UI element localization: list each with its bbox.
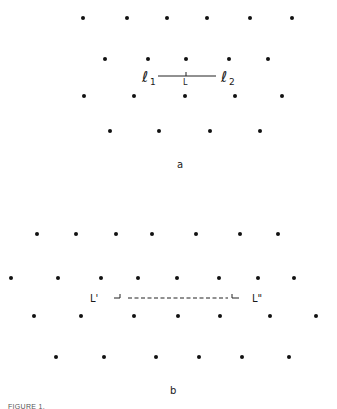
label-L-double-prime: L" <box>252 293 262 304</box>
panel-a-segment <box>158 72 216 76</box>
lattice-point <box>165 16 169 20</box>
lattice-point <box>102 355 106 359</box>
label-l2: ℓ <box>220 68 227 86</box>
label-L-prime: L' <box>90 293 98 304</box>
lattice-point <box>54 355 58 359</box>
label-l1-subscript: 1 <box>150 77 156 87</box>
lattice-point <box>175 276 179 280</box>
lattice-point <box>290 16 294 20</box>
panel-b-lattice-points <box>9 232 318 359</box>
lattice-point <box>35 232 39 236</box>
label-midpoint-L: L <box>183 78 188 87</box>
lattice-point <box>132 314 136 318</box>
lattice-point <box>146 57 150 61</box>
lattice-point <box>217 276 221 280</box>
lattice-point <box>227 57 231 61</box>
lattice-point <box>132 94 136 98</box>
lattice-point <box>197 355 201 359</box>
lattice-point <box>103 57 107 61</box>
lattice-point <box>81 16 85 20</box>
lattice-point <box>183 94 187 98</box>
lattice-point <box>150 232 154 236</box>
lattice-point <box>99 276 103 280</box>
lattice-point <box>218 314 222 318</box>
lattice-point <box>240 355 244 359</box>
lattice-point <box>292 276 296 280</box>
lattice-point <box>79 314 83 318</box>
lattice-point <box>258 129 262 133</box>
lattice-point <box>176 314 180 318</box>
lattice-point <box>32 314 36 318</box>
panel-a-lattice-points <box>81 16 294 133</box>
lattice-point <box>184 57 188 61</box>
lattice-point <box>154 355 158 359</box>
lattice-point <box>157 129 161 133</box>
label-l1: ℓ <box>141 68 148 86</box>
lattice-point <box>256 276 260 280</box>
lattice-point <box>108 129 112 133</box>
lattice-point <box>74 232 78 236</box>
panel-b-label: b <box>170 385 176 396</box>
lattice-point <box>208 129 212 133</box>
lattice-point <box>56 276 60 280</box>
lattice-point <box>9 276 13 280</box>
lattice-point <box>114 232 118 236</box>
panel-a-label: a <box>177 159 183 170</box>
panel-b-segment <box>114 294 239 298</box>
lattice-point <box>276 232 280 236</box>
lattice-point <box>233 94 237 98</box>
lattice-point <box>266 57 270 61</box>
lattice-point <box>82 94 86 98</box>
lattice-point <box>205 16 209 20</box>
lattice-point <box>125 16 129 20</box>
figure-caption: FIGURE 1. <box>8 403 45 409</box>
label-l2-subscript: 2 <box>229 77 235 87</box>
lattice-point <box>136 276 140 280</box>
lattice-point <box>238 232 242 236</box>
lattice-figure: ℓ 1 L ℓ 2 a L' L" b <box>0 0 337 409</box>
lattice-point <box>268 314 272 318</box>
lattice-point <box>314 314 318 318</box>
lattice-point <box>280 94 284 98</box>
lattice-point <box>287 355 291 359</box>
lattice-point <box>248 16 252 20</box>
lattice-point <box>194 232 198 236</box>
